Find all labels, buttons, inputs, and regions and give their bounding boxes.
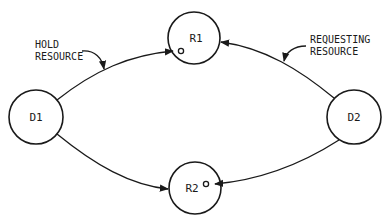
- edge-d2-r2: [215, 140, 339, 184]
- node-r1: R1: [168, 12, 220, 64]
- node-r2: R2: [169, 162, 221, 214]
- node-r2-label: R2: [185, 182, 198, 195]
- annotation-requesting-pointer: [284, 46, 306, 61]
- annotation-hold-line2: RESOURCE: [35, 51, 83, 62]
- resource-graph: D1 R1 R2 D2 HOLD RESOURCE REQUESTING RES…: [0, 0, 390, 224]
- annotation-hold-pointer: [82, 51, 104, 69]
- annotation-requesting-line1: REQUESTING: [310, 34, 370, 45]
- annotation-requesting-line2: RESOURCE: [310, 46, 358, 57]
- node-d2-label: D2: [347, 111, 360, 124]
- node-d1: D1: [9, 90, 63, 144]
- node-d1-label: D1: [29, 111, 42, 124]
- edge-d1-r2: [57, 134, 168, 189]
- hold-dot-r2: [203, 181, 208, 186]
- annotation-requesting-resource: REQUESTING RESOURCE: [284, 34, 370, 61]
- annotation-hold-line1: HOLD: [35, 39, 59, 50]
- node-r1-label: R1: [189, 32, 202, 45]
- hold-dot-r1: [178, 48, 183, 53]
- node-d2: D2: [327, 90, 381, 144]
- annotation-hold-resource: HOLD RESOURCE: [35, 39, 104, 69]
